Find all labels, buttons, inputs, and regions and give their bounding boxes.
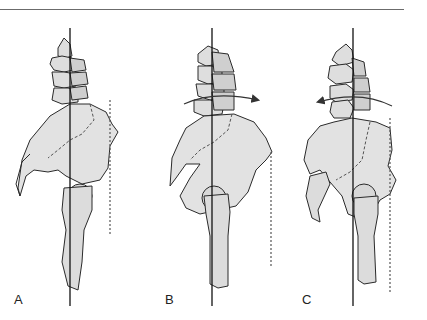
lumbar-spine-a <box>50 38 88 104</box>
femur-b <box>204 194 230 288</box>
panel-b <box>170 28 272 306</box>
femur-a <box>62 186 92 290</box>
panel-c <box>304 28 396 306</box>
diagram-figure <box>0 0 427 320</box>
panel-a <box>16 28 118 306</box>
pelvis-a <box>18 104 118 196</box>
panel-label-b: B <box>165 292 174 307</box>
panel-label-c: C <box>302 292 311 307</box>
panel-label-a: A <box>14 292 23 307</box>
lumbar-spine-b <box>194 46 236 116</box>
lumbar-spine-c <box>328 44 370 118</box>
ilium-wing-c <box>306 172 330 222</box>
femur-c <box>354 196 378 284</box>
